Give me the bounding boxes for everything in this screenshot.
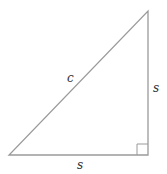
vertical-leg-label: s bbox=[153, 81, 159, 95]
right-angle-marker bbox=[137, 144, 148, 155]
right-triangle bbox=[9, 11, 148, 155]
hypotenuse-label: c bbox=[67, 71, 74, 85]
triangle-diagram: c s s bbox=[0, 0, 167, 174]
horizontal-leg-label: s bbox=[77, 158, 83, 172]
